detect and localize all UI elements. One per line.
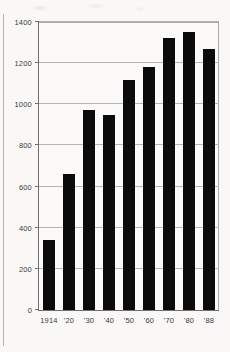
bar [123,80,135,310]
bar-slot [39,22,59,310]
x-axis-tick-labels: 1914'20'30'40'50'60'70'80'88 [39,316,219,325]
bar [143,67,155,310]
y-axis-tick-label: 1400 [15,18,33,27]
bar-slot [179,22,199,310]
bar-slot [59,22,79,310]
y-axis-tick-label: 400 [19,223,32,232]
bar-chart: 0200400600800100012001400 [39,22,219,310]
bar-slot [159,22,179,310]
bar [183,32,195,310]
x-axis-tick-label: '80 [179,316,199,325]
y-axis-tick-label: 1000 [15,100,33,109]
y-axis-tick-label: 200 [19,264,32,273]
y-axis-tick-label: 600 [19,182,32,191]
x-axis-tick-label: '30 [79,316,99,325]
bar-slot [79,22,99,310]
bar [83,110,95,310]
bar-series [39,22,219,310]
bar-slot [119,22,139,310]
bar [103,115,115,310]
y-axis-tick-label: 0 [28,306,32,315]
bar-slot [99,22,119,310]
chart-page: 0200400600800100012001400 1914'20'30'40'… [0,0,230,352]
bar-slot [139,22,159,310]
bar [163,38,175,310]
x-axis-tick-label: '88 [199,316,219,325]
x-axis-tick-label: '40 [99,316,119,325]
x-axis-tick-label: '20 [59,316,79,325]
bar [203,49,215,310]
bar [43,240,55,310]
x-axis-tick-label: 1914 [39,316,59,325]
x-axis-tick-label: '60 [139,316,159,325]
y-axis-tick-label: 1200 [15,59,33,68]
x-axis-tick-label: '70 [159,316,179,325]
bar-slot [199,22,219,310]
bar [63,174,75,310]
x-axis-tick-label: '50 [119,316,139,325]
x-axis-line [38,310,219,311]
page-edge-line [3,14,4,346]
y-axis-tick-label: 800 [19,141,32,150]
scan-artifact [0,0,230,18]
